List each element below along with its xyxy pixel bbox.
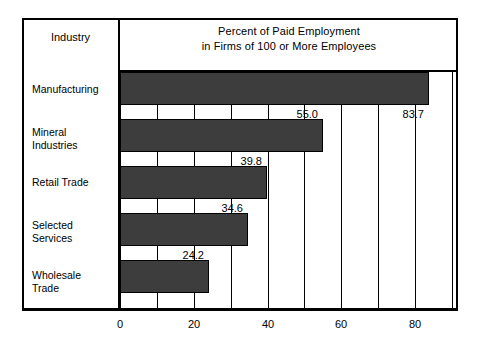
value-label-selected-services: 34.6 bbox=[215, 202, 243, 214]
category-label-line: Industries bbox=[32, 139, 116, 152]
category-label-line: Services bbox=[32, 232, 116, 245]
chart-title-line-2: in Firms of 100 or More Employees bbox=[122, 39, 456, 54]
category-label-line: Mineral bbox=[32, 126, 116, 139]
chart-title-line-1: Percent of Paid Employment bbox=[122, 24, 456, 39]
category-label-selected-services: Selected Services bbox=[32, 219, 116, 245]
value-label-manufacturing: 83.7 bbox=[396, 108, 424, 120]
value-label-mineral-industries: 55.0 bbox=[290, 108, 318, 120]
category-label-line: Trade bbox=[32, 282, 116, 295]
category-label-line: Wholesale bbox=[32, 269, 116, 282]
gridline bbox=[268, 72, 269, 308]
bar-chart: Industry Percent of Paid Employment in F… bbox=[0, 0, 480, 352]
value-label-wholesale-trade: 24.2 bbox=[176, 249, 204, 261]
x-axis-line bbox=[22, 309, 458, 311]
gridline bbox=[341, 72, 342, 308]
x-tick-label-20: 20 bbox=[179, 318, 209, 330]
bar-manufacturing bbox=[120, 72, 429, 105]
category-label-line: Retail Trade bbox=[32, 176, 116, 189]
gridline bbox=[452, 72, 453, 308]
chart-title: Percent of Paid Employment in Firms of 1… bbox=[122, 24, 456, 54]
category-label-manufacturing: Manufacturing bbox=[32, 83, 116, 96]
bar-selected-services bbox=[120, 213, 248, 246]
x-tick-label-60: 60 bbox=[326, 318, 356, 330]
x-tick-label-80: 80 bbox=[400, 318, 430, 330]
x-tick-label-0: 0 bbox=[105, 318, 135, 330]
category-label-wholesale-trade: Wholesale Trade bbox=[32, 269, 116, 295]
category-label-retail-trade: Retail Trade bbox=[32, 176, 116, 189]
value-label-retail-trade: 39.8 bbox=[234, 155, 262, 167]
bar-retail-trade bbox=[120, 166, 267, 199]
x-tick-label-40: 40 bbox=[253, 318, 283, 330]
category-label-line: Manufacturing bbox=[32, 83, 116, 96]
category-label-mineral-industries: Mineral Industries bbox=[32, 126, 116, 152]
category-label-line: Selected bbox=[32, 219, 116, 232]
gridline bbox=[378, 72, 379, 308]
category-column-header: Industry bbox=[24, 31, 117, 43]
bar-mineral-industries bbox=[120, 119, 323, 152]
bar-wholesale-trade bbox=[120, 260, 209, 293]
